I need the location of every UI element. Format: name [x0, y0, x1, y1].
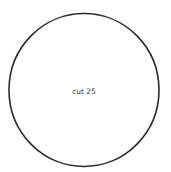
- circle-label: cut 25: [72, 87, 96, 96]
